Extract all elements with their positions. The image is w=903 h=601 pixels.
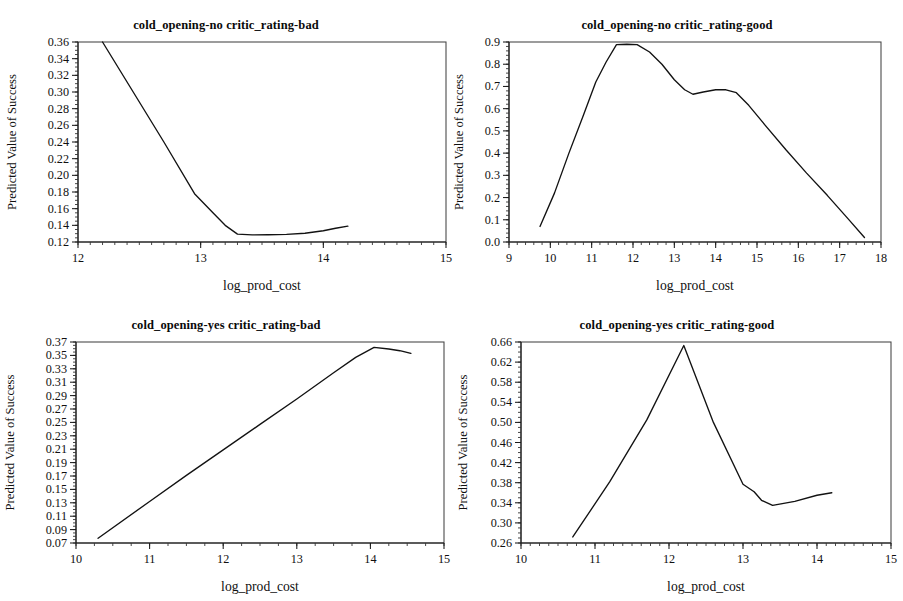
y-tick-label: 0.11: [46, 509, 67, 523]
y-axis-label: Predicted Value of Success: [452, 74, 466, 210]
x-axis-label: log_prod_cost: [656, 278, 734, 293]
x-tick-label: 13: [737, 552, 749, 566]
axes-frame: [509, 42, 881, 242]
y-tick-label: 0.62: [491, 355, 512, 369]
y-tick-label: 0.18: [48, 185, 69, 199]
y-tick-label: 0.6: [485, 102, 500, 116]
y-tick-label: 0.36: [48, 35, 69, 49]
x-major-ticks: 101112131415: [515, 543, 897, 566]
x-tick-label: 11: [144, 552, 156, 566]
y-major-ticks: 0.00.10.20.30.40.50.60.70.80.9: [485, 35, 509, 249]
data-series-line: [540, 44, 864, 237]
y-tick-label: 0.26: [48, 118, 69, 132]
y-tick-label: 0.46: [491, 436, 512, 450]
chart-panel-3: cold_opening-yes critic_rating-good10111…: [451, 300, 903, 601]
x-tick-label: 13: [195, 251, 207, 265]
chart-panel-0: cold_opening-no critic_rating-bad1213141…: [0, 0, 452, 300]
y-tick-label: 0.30: [491, 516, 512, 530]
y-tick-label: 0.13: [46, 496, 67, 510]
x-tick-label: 14: [811, 552, 823, 566]
y-tick-label: 0.8: [485, 57, 500, 71]
y-tick-label: 0.16: [48, 202, 69, 216]
x-tick-label: 13: [291, 552, 303, 566]
y-tick-label: 0.58: [491, 375, 512, 389]
y-tick-label: 0.9: [485, 35, 500, 49]
y-tick-label: 0.14: [48, 218, 69, 232]
y-tick-label: 0.34: [48, 52, 69, 66]
x-tick-label: 10: [515, 552, 527, 566]
axes-frame: [78, 42, 446, 242]
y-axis-label: Predicted Value of Success: [5, 74, 19, 210]
y-tick-label: 0.22: [48, 152, 69, 166]
y-tick-label: 0.29: [46, 389, 67, 403]
x-tick-label: 15: [751, 251, 763, 265]
y-tick-label: 0.0: [485, 235, 500, 249]
x-tick-label: 14: [317, 251, 329, 265]
x-tick-label: 12: [627, 251, 639, 265]
plot-area: 91011121314151617180.00.10.20.30.40.50.6…: [451, 0, 903, 300]
chart-panel-2: cold_opening-yes critic_rating-bad101112…: [0, 300, 452, 601]
y-tick-label: 0.27: [46, 402, 67, 416]
x-tick-label: 12: [663, 552, 675, 566]
chart-panel-1: cold_opening-no critic_rating-good910111…: [451, 0, 903, 300]
data-series-line: [98, 347, 411, 538]
axes-frame: [521, 342, 891, 543]
x-tick-label: 15: [438, 552, 450, 566]
y-tick-label: 0.31: [46, 375, 67, 389]
y-tick-label: 0.32: [48, 68, 69, 82]
y-tick-label: 0.5: [485, 124, 500, 138]
x-tick-label: 17: [834, 251, 846, 265]
x-major-ticks: 101112131415: [70, 543, 450, 566]
y-major-ticks: 0.070.090.110.130.150.170.190.210.230.25…: [46, 335, 76, 550]
x-tick-label: 11: [589, 552, 601, 566]
y-tick-label: 0.23: [46, 429, 67, 443]
y-tick-label: 0.17: [46, 469, 67, 483]
x-tick-label: 16: [792, 251, 804, 265]
x-axis-label: log_prod_cost: [223, 278, 301, 293]
y-tick-label: 0.50: [491, 415, 512, 429]
y-tick-label: 0.42: [491, 456, 512, 470]
y-tick-label: 0.30: [48, 85, 69, 99]
x-tick-label: 15: [885, 552, 897, 566]
plot-area: 121314150.120.140.160.180.200.220.240.26…: [0, 0, 452, 300]
y-tick-label: 0.54: [491, 395, 512, 409]
y-major-ticks: 0.260.300.340.380.420.460.500.540.580.62…: [491, 335, 521, 550]
x-tick-label: 11: [586, 251, 598, 265]
x-major-ticks: 9101112131415161718: [506, 242, 887, 265]
plot-area: 1011121314150.260.300.340.380.420.460.50…: [451, 300, 903, 601]
x-tick-label: 12: [217, 552, 229, 566]
y-tick-label: 0.21: [46, 442, 67, 456]
y-tick-label: 0.26: [491, 536, 512, 550]
x-tick-label: 14: [710, 251, 722, 265]
x-tick-label: 10: [70, 552, 82, 566]
x-tick-label: 12: [72, 251, 84, 265]
y-tick-label: 0.35: [46, 348, 67, 362]
y-tick-label: 0.15: [46, 482, 67, 496]
x-tick-label: 10: [544, 251, 556, 265]
y-tick-label: 0.20: [48, 168, 69, 182]
multi-panel-figure: cold_opening-no critic_rating-bad1213141…: [0, 0, 903, 601]
x-axis-label: log_prod_cost: [221, 579, 299, 594]
y-tick-label: 0.07: [46, 536, 67, 550]
y-minor-ticks: [73, 342, 76, 543]
y-tick-label: 0.38: [491, 476, 512, 490]
y-tick-label: 0.1: [485, 213, 500, 227]
y-tick-label: 0.09: [46, 523, 67, 537]
x-minor-ticks: [521, 543, 891, 546]
y-tick-label: 0.2: [485, 191, 500, 205]
x-tick-label: 9: [506, 251, 512, 265]
y-tick-label: 0.34: [491, 496, 512, 510]
x-tick-label: 13: [668, 251, 680, 265]
x-axis-label: log_prod_cost: [667, 579, 745, 594]
y-tick-label: 0.37: [46, 335, 67, 349]
y-tick-label: 0.12: [48, 235, 69, 249]
y-tick-label: 0.24: [48, 135, 69, 149]
y-major-ticks: 0.120.140.160.180.200.220.240.260.280.30…: [48, 35, 78, 249]
x-tick-label: 18: [875, 251, 887, 265]
y-tick-label: 0.33: [46, 362, 67, 376]
y-tick-label: 0.7: [485, 79, 500, 93]
data-series-line: [573, 346, 832, 537]
y-axis-label: Predicted Value of Success: [456, 374, 470, 510]
y-tick-label: 0.4: [485, 146, 500, 160]
y-axis-label: Predicted Value of Success: [3, 374, 17, 510]
